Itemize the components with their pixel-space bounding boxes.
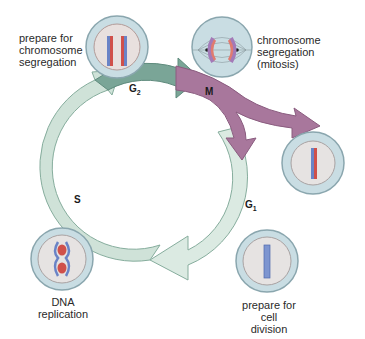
m-cell bbox=[192, 17, 252, 77]
caption-line: replication bbox=[36, 308, 90, 320]
phase-label-s: S bbox=[74, 194, 81, 205]
g1-arrow bbox=[150, 128, 248, 280]
daughter-cell bbox=[282, 132, 344, 194]
caption-g1-cell: prepare for cell division bbox=[242, 299, 296, 335]
caption-line: segregation bbox=[19, 56, 83, 68]
caption-line: cell division bbox=[242, 311, 296, 335]
caption-s-cell: DNA replication bbox=[36, 296, 90, 320]
caption-line: DNA bbox=[36, 296, 90, 308]
phase-label-m: M bbox=[205, 86, 213, 97]
caption-line: prepare for bbox=[19, 32, 83, 44]
caption-line: chromosome bbox=[257, 34, 321, 46]
caption-g2-cell: prepare for chromosome segregation bbox=[19, 32, 83, 68]
caption-line: (mitosis) bbox=[257, 58, 321, 70]
caption-line: chromosome bbox=[19, 44, 83, 56]
g1-cell bbox=[236, 230, 298, 292]
caption-line: prepare for bbox=[242, 299, 296, 311]
s-cell bbox=[31, 228, 93, 290]
phase-label-g1: G1 bbox=[245, 199, 257, 212]
caption-line: segregation bbox=[257, 46, 321, 58]
g2-cell bbox=[86, 16, 148, 78]
phase-label-g2: G2 bbox=[129, 83, 141, 96]
caption-m-cell: chromosome segregation (mitosis) bbox=[257, 34, 321, 70]
